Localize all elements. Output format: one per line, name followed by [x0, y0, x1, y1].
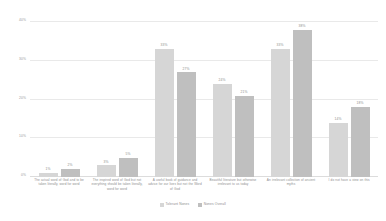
legend-swatch-icon — [160, 203, 164, 207]
bar-column[interactable]: 21% — [235, 22, 254, 177]
bar[interactable] — [329, 123, 348, 177]
bar-value-label: 33% — [161, 44, 168, 47]
bar-column[interactable]: 5% — [119, 22, 138, 177]
bar[interactable] — [235, 96, 254, 177]
x-axis-labels: The actual word of God and to be taken l… — [30, 178, 378, 191]
bar-column[interactable]: 33% — [155, 22, 174, 177]
bar-column[interactable]: 14% — [329, 22, 348, 177]
bar-value-label: 27% — [183, 68, 190, 71]
chart-legend: Tolerant NonesNones Overall — [0, 203, 386, 207]
bar-group: 3%5% — [88, 22, 146, 177]
bar-value-label: 5% — [126, 153, 131, 156]
bar-group: 14%18% — [320, 22, 378, 177]
bar[interactable] — [213, 84, 232, 177]
y-axis-tick-label: 0% — [21, 174, 26, 177]
bar-column[interactable]: 24% — [213, 22, 232, 177]
legend-label: Nones Overall — [204, 203, 226, 206]
bar[interactable] — [177, 72, 196, 177]
bar-group: 1%2% — [30, 22, 88, 177]
bar[interactable] — [271, 49, 290, 177]
bar[interactable] — [119, 158, 138, 177]
bar-value-label: 38% — [299, 25, 306, 28]
legend-item[interactable]: Nones Overall — [198, 203, 226, 207]
x-axis-category-label: Beautiful literature but otherwise irrel… — [204, 178, 262, 191]
bar[interactable] — [351, 107, 370, 177]
plot-area: 0%10%20%30%40% 1%2%3%5%33%27%24%21%33%38… — [30, 22, 378, 177]
bar-column[interactable]: 3% — [97, 22, 116, 177]
bar-group: 24%21% — [204, 22, 262, 177]
x-axis-category-label: The inspired word of God but not everyth… — [88, 178, 146, 191]
bar-value-label: 14% — [335, 118, 342, 121]
legend-swatch-icon — [198, 203, 202, 207]
y-axis-tick-label: 10% — [19, 136, 26, 139]
bar-column[interactable]: 2% — [61, 22, 80, 177]
bar-value-label: 3% — [104, 161, 109, 164]
bar[interactable] — [97, 165, 116, 177]
bar-group: 33%38% — [262, 22, 320, 177]
x-axis-category-label: The actual word of God and to be taken l… — [30, 178, 88, 191]
bar-column[interactable]: 33% — [271, 22, 290, 177]
x-axis-category-label: An irrelevant collection of ancient myth… — [262, 178, 320, 191]
bar-value-label: 18% — [357, 102, 364, 105]
bar-column[interactable]: 27% — [177, 22, 196, 177]
bar-groups: 1%2%3%5%33%27%24%21%33%38%14%18% — [30, 22, 378, 177]
bar[interactable] — [293, 30, 312, 177]
bar-value-label: 21% — [241, 91, 248, 94]
y-axis-tick-label: 20% — [19, 97, 26, 100]
bar-value-label: 24% — [219, 79, 226, 82]
bar-value-label: 1% — [46, 168, 51, 171]
bar-column[interactable]: 38% — [293, 22, 312, 177]
bar-value-label: 2% — [68, 164, 73, 167]
x-axis-category-label: A useful book of guidance and advice for… — [146, 178, 204, 191]
bar-column[interactable]: 1% — [39, 22, 58, 177]
bar-column[interactable]: 18% — [351, 22, 370, 177]
legend-item[interactable]: Tolerant Nones — [160, 203, 189, 207]
bar[interactable] — [61, 169, 80, 177]
bar-chart: 0%10%20%30%40% 1%2%3%5%33%27%24%21%33%38… — [0, 0, 386, 221]
bar-group: 33%27% — [146, 22, 204, 177]
x-axis-category-label: I do not have a view on this — [320, 178, 378, 191]
bar-value-label: 33% — [277, 44, 284, 47]
y-axis-tick-label: 30% — [19, 58, 26, 61]
legend-label: Tolerant Nones — [166, 203, 190, 206]
bar[interactable] — [39, 173, 58, 177]
y-axis-tick-label: 40% — [19, 19, 26, 22]
bar[interactable] — [155, 49, 174, 177]
